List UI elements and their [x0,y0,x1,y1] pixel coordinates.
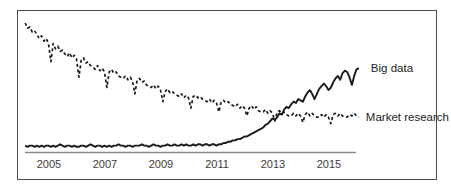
trends-figure-frame: Big data Market research 2005 2007 2009 … [17,10,437,180]
x-axis-tick-label: 2015 [307,158,351,170]
trend-lines-plot [18,11,436,179]
x-axis-tick-label: 2009 [139,158,183,170]
series-line-big-data [25,68,359,147]
x-axis-tick-label: 2011 [195,158,239,170]
series-line-market-research [25,23,359,124]
x-axis-tick-label: 2005 [27,158,71,170]
x-axis-tick-label: 2013 [251,158,295,170]
series-label-big-data: Big data [371,61,413,75]
series-label-market-research: Market research [366,110,449,124]
x-axis-tick-label: 2007 [83,158,127,170]
